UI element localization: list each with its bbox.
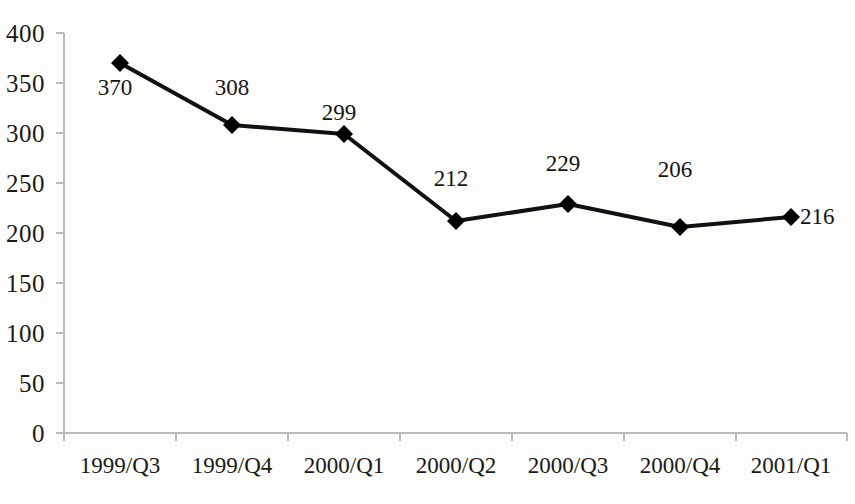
y-tick-label-150: 150: [0, 271, 45, 296]
data-label-2000-q1: 299: [294, 101, 384, 124]
data-label-1999-q4: 308: [187, 76, 277, 99]
line-chart: 400 350 300 250 200 150 100 50 0 1999/Q3…: [0, 0, 855, 504]
data-marker: [782, 208, 800, 226]
data-label-2000-q3: 229: [518, 152, 608, 175]
data-marker: [111, 54, 129, 72]
data-marker: [223, 116, 241, 134]
data-label-2000-q4: 206: [630, 158, 720, 181]
y-axis-ticks: [56, 33, 64, 433]
y-tick-label-200: 200: [0, 221, 45, 246]
data-marker: [559, 195, 577, 213]
y-tick-label-50: 50: [0, 371, 45, 396]
y-tick-label-350: 350: [0, 71, 45, 96]
data-label-2000-q2: 212: [406, 167, 496, 190]
y-tick-label-0: 0: [0, 421, 45, 446]
data-label-2001-q1: 216: [800, 205, 855, 228]
x-axis: [64, 433, 847, 441]
x-axis-ticks: [64, 433, 847, 441]
y-tick-label-400: 400: [0, 21, 45, 46]
y-axis: [56, 33, 64, 433]
y-tick-label-100: 100: [0, 321, 45, 346]
x-tick-label-2001-q1: 2001/Q1: [721, 454, 855, 477]
data-label-1999-q3: 370: [70, 76, 160, 99]
y-tick-label-300: 300: [0, 121, 45, 146]
y-tick-label-250: 250: [0, 171, 45, 196]
data-marker: [671, 218, 689, 236]
